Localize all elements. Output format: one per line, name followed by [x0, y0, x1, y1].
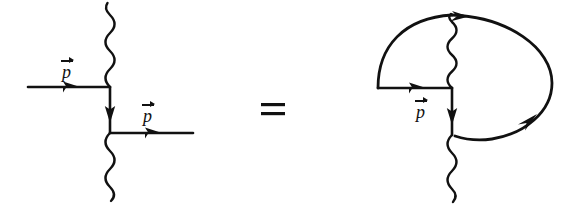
left-outgoing-momentum-label: p [141, 101, 155, 125]
right-upper-photon-wavy-line [448, 14, 457, 88]
left-lower-photon-wavy-line [106, 133, 115, 201]
right-loop-top-right-arc [452, 15, 552, 140]
equals-bar-bottom [261, 112, 285, 115]
left-upper-photon-wavy-line [106, 3, 115, 87]
equals-sign [261, 103, 285, 115]
left-outgoing-fermion-arrowhead [145, 128, 162, 139]
momentum-glyph: p [60, 63, 74, 81]
vector-arrow-icon [142, 101, 155, 108]
left-incoming-fermion-arrowhead [63, 82, 80, 93]
right-diagram [378, 11, 552, 202]
right-loop-left-and-top-arc [378, 15, 452, 88]
momentum-glyph: p [414, 103, 428, 121]
vector-arrow-icon [415, 97, 428, 104]
feynman-diagram-figure: p p p [0, 0, 582, 215]
right-loop-straight-arrowhead [409, 83, 426, 94]
right-lower-photon-wavy-line [448, 135, 457, 202]
left-diagram [28, 3, 193, 201]
vector-arrow-icon [61, 57, 74, 64]
momentum-glyph: p [141, 107, 155, 125]
equals-bar-top [261, 103, 285, 106]
diagram-canvas [0, 0, 582, 215]
right-loop-momentum-label: p [414, 97, 428, 121]
left-incoming-momentum-label: p [60, 57, 74, 81]
